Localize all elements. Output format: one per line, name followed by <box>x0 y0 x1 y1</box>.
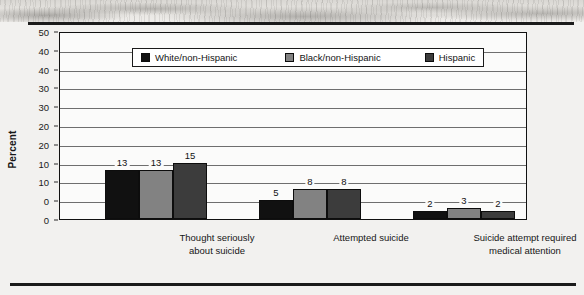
bar <box>173 163 207 219</box>
bar <box>327 189 361 219</box>
y-axis-ticks: 50404030302020101000 <box>28 32 54 220</box>
chart-legend: White/non-Hispanic Black/non-Hispanic Hi… <box>132 48 484 67</box>
bar <box>293 189 327 219</box>
y-tick-label: 0 <box>44 215 49 226</box>
y-tick-label: 20 <box>38 121 49 132</box>
legend-swatch-icon <box>141 53 150 62</box>
y-tick-mark <box>54 201 58 202</box>
bar-value-label: 8 <box>305 176 314 187</box>
y-tick-mark <box>54 69 58 70</box>
bar-slot: 2 <box>481 33 515 219</box>
decorative-photo-band <box>0 0 584 22</box>
legend-label: Hispanic <box>439 52 475 63</box>
y-tick-mark <box>54 126 58 127</box>
legend-swatch-icon <box>285 53 294 62</box>
y-tick-mark <box>54 144 58 145</box>
y-tick-mark <box>54 107 58 108</box>
y-tick-mark <box>54 163 58 164</box>
bar-value-label: 3 <box>459 195 468 206</box>
bar-chart: Percent 50404030302020101000 13131558823… <box>0 26 584 278</box>
bar-value-label: 8 <box>339 176 348 187</box>
y-tick-label: 30 <box>38 102 49 113</box>
y-axis-title: Percent <box>7 115 18 185</box>
x-category-label: Thought seriouslyabout suicide <box>142 232 292 257</box>
bar <box>481 211 515 219</box>
x-category-label: Suicide attempt requiredmedical attentio… <box>450 232 584 257</box>
legend-item-white-non-hispanic: White/non-Hispanic <box>141 52 237 63</box>
y-tick-label: 30 <box>38 83 49 94</box>
legend-item-hispanic: Hispanic <box>425 52 475 63</box>
bar <box>259 200 293 219</box>
horizontal-rule-bottom <box>10 283 576 286</box>
bar-value-label: 13 <box>115 157 130 168</box>
bar <box>139 170 173 219</box>
plot-wrapper: 50404030302020101000 131315588232 White/… <box>28 32 528 248</box>
y-tick-mark <box>54 32 58 33</box>
bar-value-label: 2 <box>493 198 502 209</box>
x-category-label: Attempted suicide <box>296 232 446 245</box>
y-tick-mark <box>54 220 58 221</box>
y-tick-label: 40 <box>38 64 49 75</box>
y-tick-mark <box>54 88 58 89</box>
legend-label: Black/non-Hispanic <box>299 52 380 63</box>
x-axis-category-labels: Thought seriouslyabout suicideAttempted … <box>90 232 556 272</box>
legend-swatch-icon <box>425 53 434 62</box>
bar-value-label: 5 <box>271 187 280 198</box>
legend-label: White/non-Hispanic <box>155 52 237 63</box>
y-tick-label: 10 <box>38 177 49 188</box>
y-tick-label: 20 <box>38 139 49 150</box>
bar-value-label: 2 <box>425 198 434 209</box>
y-tick-mark <box>54 182 58 183</box>
legend-item-black-non-hispanic: Black/non-Hispanic <box>285 52 380 63</box>
bar-value-label: 13 <box>149 157 164 168</box>
y-tick-label: 10 <box>38 158 49 169</box>
y-tick-label: 50 <box>38 27 49 38</box>
y-tick-label: 0 <box>44 196 49 207</box>
y-tick-mark <box>54 50 58 51</box>
bar <box>447 208 481 219</box>
horizontal-rule-top <box>28 22 574 25</box>
y-tick-label: 40 <box>38 45 49 56</box>
bar-value-label: 15 <box>183 150 198 161</box>
bar <box>105 170 139 219</box>
bar <box>413 211 447 219</box>
